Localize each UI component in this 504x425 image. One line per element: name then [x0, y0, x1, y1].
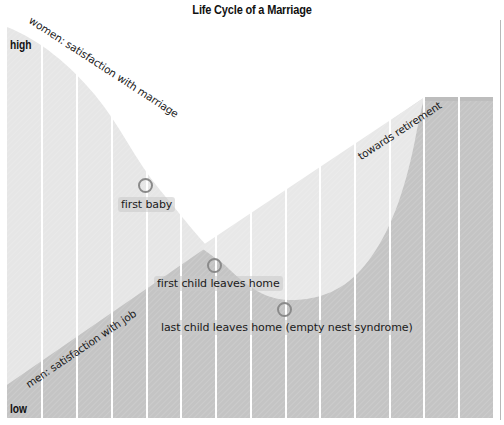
- last-child-leaves-label: last child leaves home (empty nest syndr…: [158, 320, 416, 335]
- chart-canvas: [0, 0, 504, 425]
- last-child-leaves-marker: [277, 302, 292, 317]
- first-baby-marker: [138, 178, 153, 193]
- first-child-leaves-marker: [207, 258, 222, 273]
- axis-low-label: low: [10, 402, 27, 416]
- axis-high-label: high: [10, 38, 32, 52]
- first-child-leaves-label: first child leaves home: [154, 276, 283, 291]
- first-baby-label: first baby: [118, 197, 175, 212]
- right-border-rule: [500, 20, 501, 420]
